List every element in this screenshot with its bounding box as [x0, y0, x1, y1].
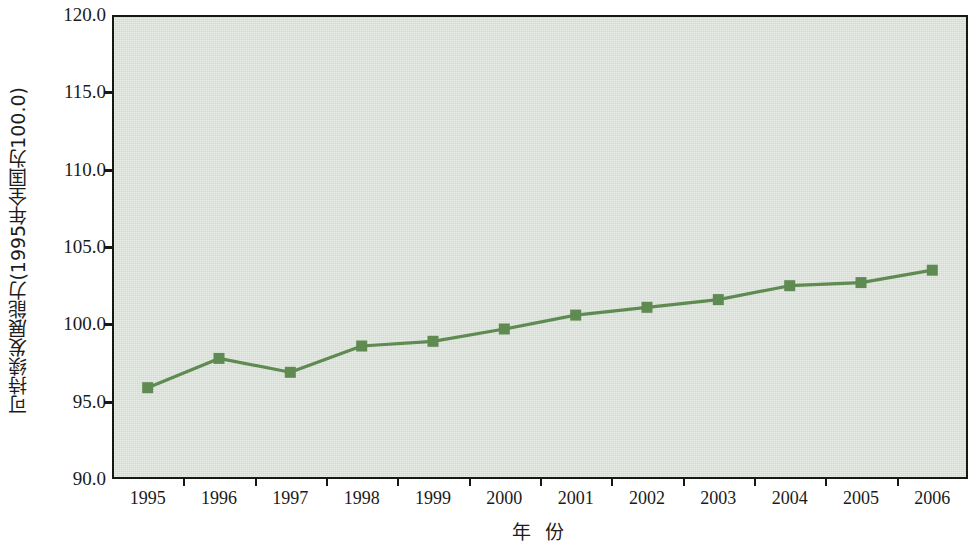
x-axis-tick-mark — [469, 477, 471, 486]
x-axis-tick-label: 2002 — [607, 488, 687, 509]
y-axis-tick-label: 100.0 — [36, 314, 106, 333]
x-axis-tick-mark — [897, 477, 899, 486]
x-axis-tick-label: 2004 — [750, 488, 830, 509]
x-axis-tick-mark — [611, 477, 613, 486]
plot-area — [112, 15, 968, 479]
x-axis-tick-mark — [255, 477, 257, 486]
plot-background-texture — [114, 17, 966, 477]
y-axis-title-text: 可持续发展能力(1995年全国为100.0) — [4, 87, 31, 414]
y-axis-tick-label: 105.0 — [36, 237, 106, 256]
y-axis-tick-label: 115.0 — [36, 82, 106, 101]
x-axis-tick-label: 1999 — [393, 488, 473, 509]
x-axis-title: 年 份 — [112, 517, 968, 544]
y-axis-tick-label: 110.0 — [36, 160, 106, 179]
x-axis-tick-mark — [326, 477, 328, 486]
chart-container: 可持续发展能力(1995年全国为100.0) 120.0115.0110.010… — [0, 0, 973, 551]
y-axis-tick-label: 90.0 — [36, 469, 106, 488]
x-axis-tick-label: 1998 — [322, 488, 402, 509]
y-axis-tick-mark — [104, 246, 114, 249]
y-axis-tick-mark — [104, 323, 114, 326]
y-axis-tick-mark — [104, 169, 114, 172]
x-axis-tick-label: 2000 — [464, 488, 544, 509]
x-axis-tick-mark — [754, 477, 756, 486]
x-axis-tick-label: 2001 — [536, 488, 616, 509]
x-axis-tick-label: 1997 — [250, 488, 330, 509]
x-axis-tick-label: 1995 — [108, 488, 188, 509]
x-axis-tick-mark — [397, 477, 399, 486]
y-axis-tick-label: 120.0 — [36, 5, 106, 24]
y-axis-tick-mark — [104, 401, 114, 404]
x-axis-tick-label: 2005 — [821, 488, 901, 509]
x-axis-tick-mark — [183, 477, 185, 486]
y-axis-tick-mark — [104, 91, 114, 94]
x-axis-tick-label: 1996 — [179, 488, 259, 509]
x-axis-tick-label: 2003 — [678, 488, 758, 509]
x-axis-tick-mark — [825, 477, 827, 486]
y-axis-tick-label: 95.0 — [36, 392, 106, 411]
x-axis-tick-mark — [540, 477, 542, 486]
x-axis-tick-label: 2006 — [892, 488, 972, 509]
x-axis-tick-mark — [683, 477, 685, 486]
y-axis-tick-labels: 120.0115.0110.0105.0100.095.090.0 — [28, 0, 106, 551]
